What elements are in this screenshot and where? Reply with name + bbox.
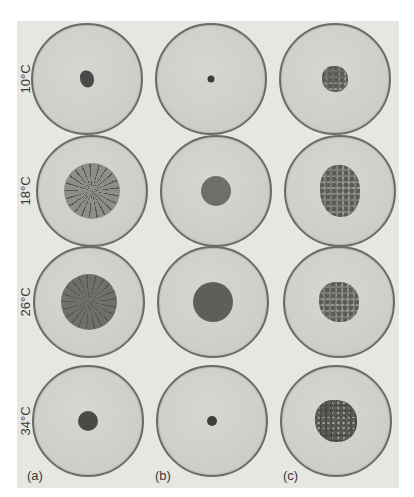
fungal-colony [322, 66, 348, 92]
fungal-colony [193, 282, 233, 322]
petri-dish [156, 365, 268, 477]
fungal-colony [207, 416, 217, 426]
petri-dish [33, 246, 145, 358]
fungal-colony [80, 71, 94, 88]
fungal-colony [201, 176, 231, 206]
fungal-colony [320, 165, 360, 217]
row-label-18c: 18°C [18, 176, 33, 205]
fungal-colony [208, 76, 215, 83]
petri-dish [284, 135, 396, 247]
petri-dish [280, 365, 392, 477]
plate-photograph: 10°C 18°C 26°C 34°C (a) (b) (c) [17, 21, 399, 488]
petri-dish [155, 23, 267, 135]
fungal-colony [78, 411, 98, 431]
petri-dish [36, 135, 148, 247]
column-label-a: (a) [27, 468, 43, 483]
petri-dish [32, 365, 144, 477]
column-label-c: (c) [283, 468, 298, 483]
row-label-34c: 34°C [18, 406, 33, 435]
petri-dish [31, 23, 143, 135]
fungal-colony [319, 282, 359, 322]
fungal-colony [315, 400, 357, 442]
row-label-26c: 26°C [18, 287, 33, 316]
fungal-colony [62, 275, 116, 329]
petri-dish [160, 135, 272, 247]
petri-dish [279, 23, 391, 135]
petri-dish [157, 246, 269, 358]
petri-dish [283, 246, 395, 358]
column-label-b: (b) [155, 468, 171, 483]
fungal-colony [65, 164, 119, 218]
